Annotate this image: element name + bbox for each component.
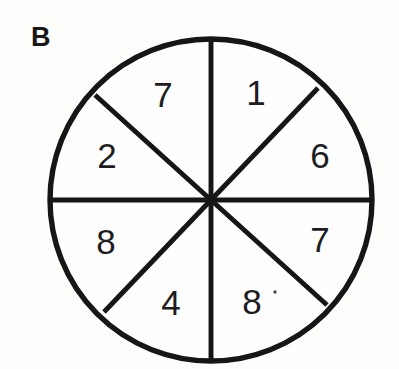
scan-speck-artifact xyxy=(273,290,276,293)
sector-label-bottom-left: 4 xyxy=(161,283,180,322)
sector-label-top-left: 7 xyxy=(153,75,172,114)
sector-label-left-lower: 8 xyxy=(96,222,115,261)
sector-label-left-upper: 2 xyxy=(97,136,116,175)
sector-label-right-lower: 7 xyxy=(310,220,329,259)
figure-container: B 1 6 7 8 4 8 2 7 xyxy=(0,0,399,369)
sector-label-bottom-right: 8 xyxy=(242,282,261,321)
sector-label-right-upper: 6 xyxy=(310,136,329,175)
sector-label-top-right: 1 xyxy=(246,73,265,112)
sector-wheel-diagram: 1 6 7 8 4 8 2 7 xyxy=(0,0,399,369)
